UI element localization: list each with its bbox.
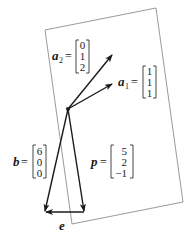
svg-text:a: a (52, 48, 59, 63)
vector-a1-arrow (68, 84, 112, 109)
vector-p-arrow (68, 109, 84, 211)
svg-text:=: = (65, 49, 72, 63)
svg-text:0: 0 (37, 167, 43, 179)
svg-text:1: 1 (147, 87, 153, 99)
svg-text:1: 1 (125, 82, 129, 91)
svg-text:a: a (118, 74, 125, 89)
svg-text:=: = (100, 155, 107, 169)
projection-diagram: a 2 = 0 1 2 a 1 = 1 1 1 b = 6 0 0 p = 5 … (0, 0, 193, 244)
svg-text:−1: −1 (115, 167, 127, 179)
label-b: b = 6 0 0 (13, 145, 46, 179)
vector-a2-arrow (68, 55, 112, 109)
label-e: e (59, 218, 65, 233)
svg-text:=: = (21, 155, 28, 169)
svg-text:b: b (13, 154, 20, 169)
origin-point (66, 107, 70, 111)
svg-text:2: 2 (80, 61, 86, 73)
vector-b-arrow (45, 109, 68, 211)
svg-text:p: p (90, 154, 98, 169)
label-a1: a 1 = 1 1 1 (118, 65, 156, 99)
svg-text:2: 2 (59, 56, 63, 65)
plane (45, 8, 183, 224)
label-a2: a 2 = 0 1 2 (52, 39, 89, 73)
svg-text:=: = (131, 75, 138, 89)
label-p: p = 5 2 −1 (90, 145, 133, 179)
